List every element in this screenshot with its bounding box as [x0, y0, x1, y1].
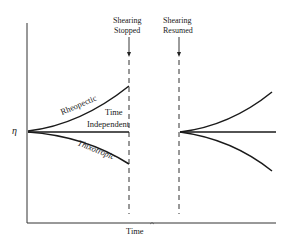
thixotropic-curve	[28, 132, 129, 164]
time-independent-label-line1: Time	[105, 107, 123, 117]
event-shearing-resumed: Shearing Resumed	[163, 16, 193, 214]
arrowhead-icon	[177, 52, 181, 57]
event-label-line2: Resumed	[163, 26, 193, 35]
event-label-line2: Stopped	[114, 26, 140, 35]
y-axis-label: η	[12, 125, 17, 136]
time-independent-label-line2: Independent	[87, 119, 130, 129]
thixotropic-label: Thixotropic	[76, 138, 116, 162]
arrowhead-icon	[127, 52, 131, 57]
event-label-line1: Shearing	[163, 16, 191, 25]
rheopectic-label: Rheopectic	[59, 93, 98, 117]
thixotropic-curve-resumed	[180, 132, 272, 171]
x-axis-label: Time	[126, 226, 144, 236]
viscosity-time-diagram: η Time Shearing Stopped Shearing Resumed…	[0, 0, 291, 244]
rheopectic-curve-resumed	[180, 92, 272, 132]
event-label-line1: Shearing	[113, 16, 141, 25]
